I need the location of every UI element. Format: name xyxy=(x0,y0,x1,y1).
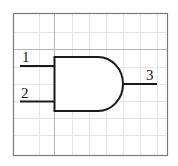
and-gate-diagram: 1 2 3 xyxy=(0,0,178,166)
output-label: 3 xyxy=(146,67,154,83)
input-label-1: 1 xyxy=(22,49,30,65)
input-label-2: 2 xyxy=(21,85,29,101)
and-gate-body xyxy=(55,57,124,111)
